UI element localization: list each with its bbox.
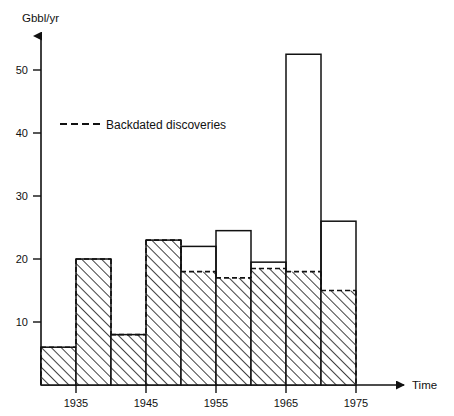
- x-tick-label: 1945: [134, 397, 158, 409]
- bar-group: [181, 246, 216, 385]
- bar-chart: Gbbl/yr Time 1020304050 1935194519551965…: [0, 0, 454, 416]
- bar-hatch-discoveries: [76, 259, 111, 385]
- bar-hatch-discoveries: [111, 335, 146, 385]
- bar-hatch-discoveries: [181, 272, 216, 385]
- x-axis-title: Time: [412, 379, 437, 391]
- bar-hatch-discoveries: [146, 240, 181, 385]
- bar-hatch-discoveries: [41, 347, 76, 385]
- bar-group: [146, 240, 181, 385]
- bar-group: [216, 231, 251, 385]
- x-tick-label: 1965: [274, 397, 298, 409]
- chart-legend: Backdated discoveries: [60, 118, 226, 132]
- bar-group: [321, 221, 356, 385]
- bar-group: [111, 335, 146, 385]
- y-axis-ticks: 1020304050: [16, 64, 41, 328]
- x-tick-label: 1955: [204, 397, 228, 409]
- x-tick-label: 1935: [64, 397, 88, 409]
- y-tick-label: 30: [16, 190, 28, 202]
- bar-hatch-discoveries: [216, 278, 251, 385]
- chart-container: Gbbl/yr Time 1020304050 1935194519551965…: [0, 0, 454, 416]
- y-axis-label: Gbbl/yr: [22, 12, 59, 24]
- x-axis-ticks: 19351945195519651975: [64, 385, 368, 409]
- legend-label-backdated-discoveries: Backdated discoveries: [106, 118, 226, 132]
- x-tick-label: 1975: [344, 397, 368, 409]
- bars-layer: [41, 54, 356, 385]
- bar-group: [76, 259, 111, 385]
- bar-group: [41, 347, 76, 385]
- bar-hatch-discoveries: [321, 291, 356, 386]
- y-tick-label: 10: [16, 316, 28, 328]
- y-tick-label: 20: [16, 253, 28, 265]
- bar-hatch-discoveries: [286, 272, 321, 385]
- bar-hatch-discoveries: [251, 268, 286, 385]
- y-tick-label: 40: [16, 127, 28, 139]
- bar-group: [286, 54, 321, 385]
- bar-group: [251, 262, 286, 385]
- y-tick-label: 50: [16, 64, 28, 76]
